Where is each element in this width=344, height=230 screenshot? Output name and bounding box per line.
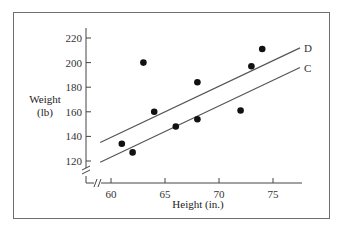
data-point: [140, 59, 147, 66]
data-point: [259, 46, 266, 53]
x-axis-break-icon: [94, 179, 101, 187]
x-tick-label: 75: [268, 188, 280, 200]
y-axis-title-line2: (lb): [37, 106, 53, 119]
data-point: [173, 123, 180, 130]
y-tick-label: 180: [66, 81, 83, 93]
line-label-d: D: [304, 42, 312, 54]
data-point: [194, 116, 201, 123]
y-tick-label: 200: [66, 57, 83, 69]
y-tick-label: 220: [66, 32, 83, 44]
x-tick-label: 60: [106, 188, 118, 200]
data-points: [119, 46, 266, 156]
data-point: [237, 107, 244, 114]
data-point: [119, 140, 126, 147]
y-tick-label: 140: [66, 130, 83, 142]
fit-lines: DC: [100, 42, 312, 162]
data-point: [151, 109, 158, 116]
axes: 12014016018020022060657075: [66, 28, 303, 200]
x-tick-label: 65: [160, 188, 172, 200]
data-point: [248, 63, 255, 70]
data-point: [194, 79, 201, 86]
line-label-c: C: [304, 62, 311, 74]
scatter-chart: 12014016018020022060657075 DC Height (in…: [0, 0, 344, 230]
data-point: [129, 149, 136, 156]
fit-line-d: [100, 48, 300, 143]
y-tick-label: 120: [66, 155, 83, 167]
y-tick-label: 160: [66, 106, 83, 118]
x-axis-title: Height (in.): [172, 198, 224, 211]
y-axis-title-line1: Weight: [29, 93, 61, 105]
